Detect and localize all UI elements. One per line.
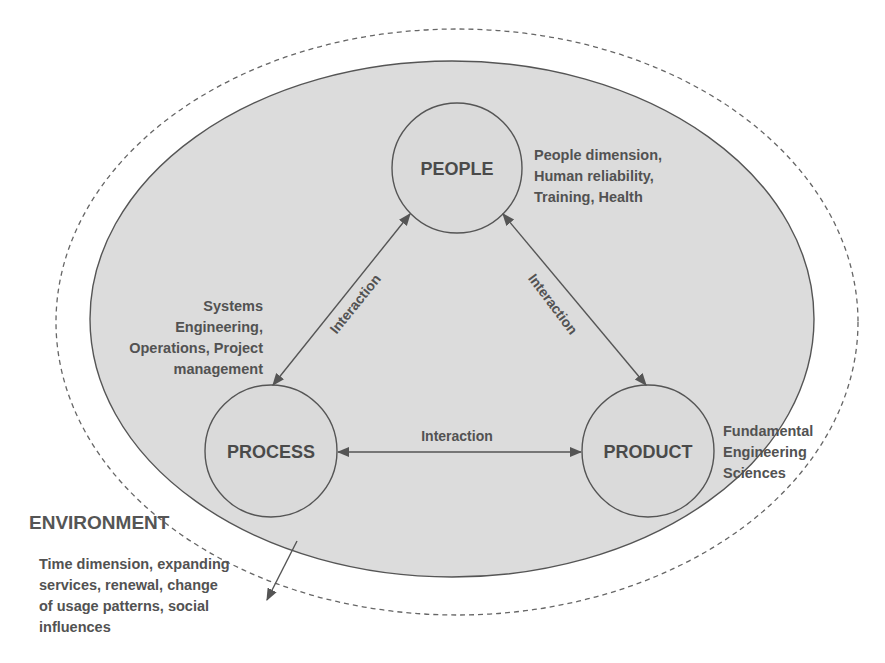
- edge-process-product-label: Interaction: [421, 428, 493, 444]
- people-desc-line: People dimension,: [534, 147, 662, 163]
- product-desc-line: Engineering: [723, 444, 807, 460]
- process-desc-line: Engineering,: [175, 319, 263, 335]
- environment-title: ENVIRONMENT: [29, 512, 170, 533]
- people-desc-line: Training, Health: [534, 189, 643, 205]
- environment-description: Time dimension, expanding services, rene…: [39, 556, 230, 635]
- process-desc-line: Systems: [203, 298, 263, 314]
- environment-desc-line: of usage patterns, social: [39, 598, 209, 614]
- product-description: Fundamental Engineering Sciences: [723, 423, 813, 481]
- people-process-product-diagram: PEOPLE PROCESS PRODUCT Interaction Inter…: [0, 0, 885, 663]
- environment-desc-line: influences: [39, 619, 111, 635]
- product-label: PRODUCT: [604, 442, 693, 462]
- process-desc-line: management: [174, 361, 264, 377]
- process-desc-line: Operations, Project: [129, 340, 263, 356]
- process-label: PROCESS: [227, 442, 315, 462]
- product-desc-line: Sciences: [723, 465, 786, 481]
- product-desc-line: Fundamental: [723, 423, 813, 439]
- environment-desc-line: Time dimension, expanding: [39, 556, 230, 572]
- node-people: PEOPLE: [392, 103, 522, 233]
- people-label: PEOPLE: [420, 159, 493, 179]
- environment-pointer-arrow: [267, 541, 297, 600]
- node-process: PROCESS: [205, 385, 337, 517]
- people-desc-line: Human reliability,: [534, 168, 654, 184]
- environment-desc-line: services, renewal, change: [39, 577, 218, 593]
- node-product: PRODUCT: [582, 385, 714, 517]
